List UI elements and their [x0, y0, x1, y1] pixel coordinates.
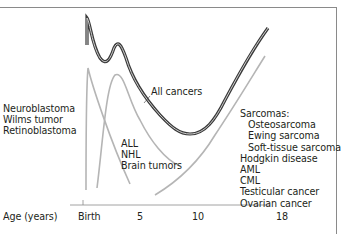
label-neuroblastoma: Neuroblastoma [3, 103, 77, 114]
label-all-cancers: All cancers [151, 86, 202, 97]
x-axis-title: Age (years) [3, 211, 57, 222]
label-retinoblastoma: Retinoblastoma [3, 125, 77, 136]
label-sarcomas: Sarcomas: [240, 108, 341, 119]
label-nhl: NHL [121, 149, 182, 160]
label-wilms-tumor: Wilms tumor [3, 114, 77, 125]
label-testicular-cancer: Testicular cancer [240, 186, 341, 197]
x-tick-5: 5 [137, 211, 143, 222]
label-hodgkin-disease: Hodgkin disease [240, 153, 341, 164]
label-cml: CML [240, 175, 341, 186]
x-tick-18: 18 [276, 211, 288, 222]
x-tick-10: 10 [192, 211, 204, 222]
label-ewing-sarcoma: Ewing sarcoma [240, 130, 341, 141]
label-group-all-nhl: ALL NHL Brain tumors [121, 138, 182, 172]
series-neuroblastoma-group [86, 68, 130, 190]
label-group-neuroblastoma: Neuroblastoma Wilms tumor Retinoblastoma [3, 103, 77, 137]
label-brain-tumors: Brain tumors [121, 160, 182, 171]
label-aml: AML [240, 164, 341, 175]
label-ovarian-cancer: Ovarian cancer [240, 198, 341, 209]
label-all: ALL [121, 138, 182, 149]
label-soft-tissue-sarcoma: Soft-tissue sarcoma [240, 142, 341, 153]
label-group-sarcomas: Sarcomas: Osteosarcoma Ewing sarcoma Sof… [240, 108, 341, 209]
label-osteosarcoma: Osteosarcoma [240, 119, 341, 130]
x-tick-birth: Birth [78, 211, 101, 222]
